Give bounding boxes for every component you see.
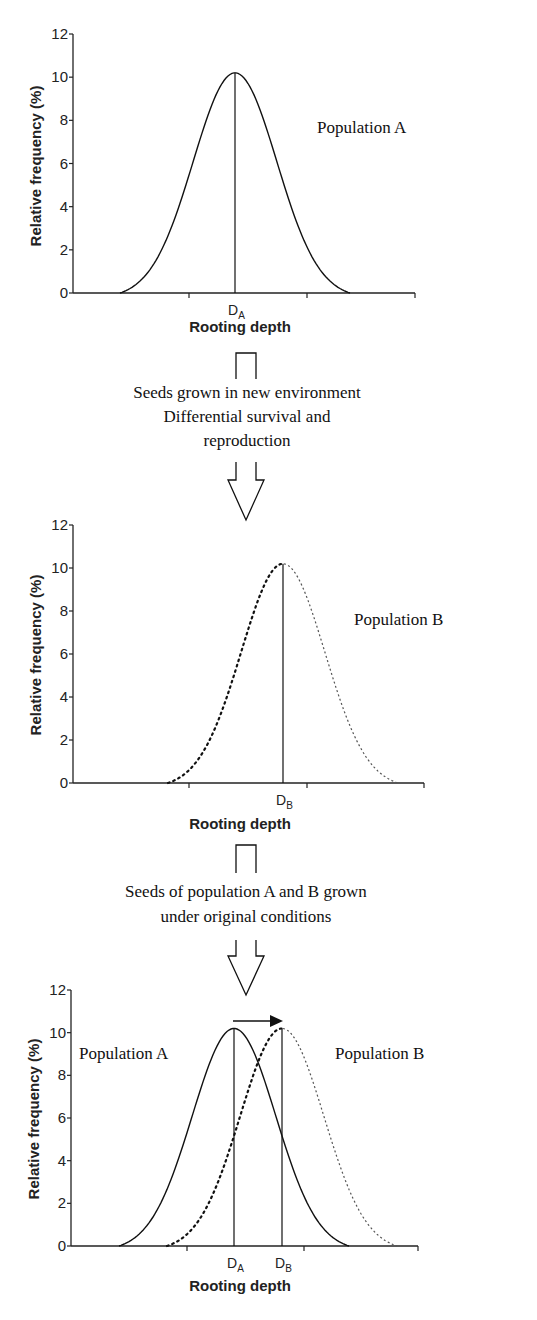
x-axis <box>73 783 424 788</box>
y-axis-title: Relative frequency (%) <box>27 86 44 247</box>
x-axis-title: Rooting depth <box>189 318 291 335</box>
y-axis-title: Relative frequency (%) <box>27 575 44 736</box>
y-tick-label: 8 <box>60 602 68 619</box>
mean-label-db: DB <box>276 792 293 811</box>
y-tick-label: 8 <box>60 111 68 128</box>
arrow-stem-top-icon <box>236 845 256 873</box>
curve-population-b-left <box>167 1029 283 1247</box>
curve-population-b-left <box>168 564 284 783</box>
series-label-population-a: Population A <box>317 118 407 137</box>
chart-population-a: 024681012 DA Relative frequency (%) Root… <box>27 25 415 335</box>
y-tick-label: 6 <box>60 645 68 662</box>
y-tick-label: 10 <box>51 68 68 85</box>
y-tick-label: 2 <box>60 731 68 748</box>
shift-arrow-icon <box>233 1015 283 1027</box>
caption-step-1-line-3: reproduction <box>204 431 291 450</box>
y-axis: 024681012 <box>51 25 73 301</box>
mean-label-da: DA <box>227 1255 244 1274</box>
arrow-head-down-icon <box>228 940 264 995</box>
y-tick-label: 12 <box>51 25 68 42</box>
caption-step-1-line-2: Differential survival and <box>164 407 331 426</box>
y-axis: 024681012 <box>49 981 71 1254</box>
x-axis <box>73 293 415 298</box>
y-tick-label: 6 <box>58 1109 66 1126</box>
y-tick-label: 2 <box>60 241 68 258</box>
evolution-rooting-depth-diagram: 024681012 DA Relative frequency (%) Root… <box>0 0 537 1320</box>
x-axis <box>71 1246 418 1251</box>
curve-population-b-right <box>284 564 398 783</box>
y-tick-label: 6 <box>60 155 68 172</box>
y-tick-label: 0 <box>60 774 68 791</box>
arrow-head-down-icon <box>228 462 264 520</box>
y-axis-title: Relative frequency (%) <box>25 1039 42 1200</box>
mean-lines: DB <box>276 564 293 811</box>
flow-arrow-step-1: Seeds grown in new environment Different… <box>133 353 361 520</box>
y-tick-label: 4 <box>60 198 68 215</box>
chart-population-b: 024681012 DB Relative frequency (%) Root… <box>27 516 443 832</box>
chart-populations-combined: 024681012 DADB Relative frequency (%) Ro… <box>25 981 424 1294</box>
caption-step-1-line-1: Seeds grown in new environment <box>133 383 361 402</box>
y-tick-label: 10 <box>51 559 68 576</box>
caption-step-2-line-2: under original conditions <box>161 907 332 926</box>
y-tick-label: 12 <box>49 981 66 998</box>
series-label-population-b: Population B <box>335 1044 424 1063</box>
caption-step-2-line-1: Seeds of population A and B grown <box>125 882 367 901</box>
mean-lines: DA <box>228 73 245 321</box>
y-tick-label: 8 <box>58 1066 66 1083</box>
flow-arrow-step-2: Seeds of population A and B grown under … <box>125 845 367 995</box>
series-label-population-b: Population B <box>354 610 443 629</box>
series-label-population-a: Population A <box>79 1044 169 1063</box>
y-tick-label: 0 <box>60 284 68 301</box>
y-tick-label: 4 <box>58 1152 66 1169</box>
y-tick-label: 0 <box>58 1237 66 1254</box>
mean-label-db: DB <box>275 1255 292 1274</box>
y-tick-label: 4 <box>60 688 68 705</box>
y-tick-label: 10 <box>49 1024 66 1041</box>
y-axis: 024681012 <box>51 516 73 791</box>
y-tick-label: 12 <box>51 516 68 533</box>
x-axis-title: Rooting depth <box>189 1277 291 1294</box>
arrow-stem-top-icon <box>236 353 256 379</box>
y-tick-label: 2 <box>58 1194 66 1211</box>
x-axis-title: Rooting depth <box>189 815 291 832</box>
